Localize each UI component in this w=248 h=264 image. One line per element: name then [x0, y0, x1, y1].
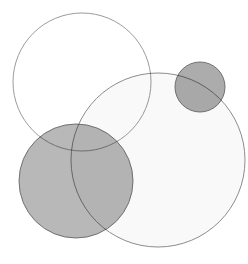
circle-small-top-right	[175, 62, 225, 112]
diagram-canvas	[0, 0, 248, 264]
circle-bottom-left	[19, 124, 133, 238]
venn-diagram	[0, 0, 248, 264]
